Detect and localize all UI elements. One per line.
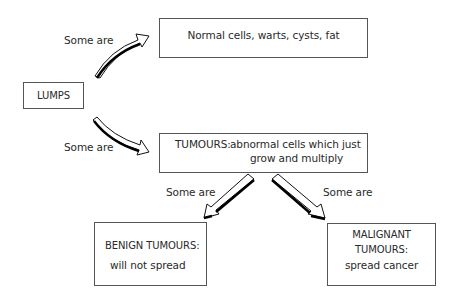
benign-title: BENIGN TUMOURS: bbox=[105, 240, 199, 251]
malignant-title2: TUMOURS: bbox=[355, 242, 408, 257]
malignant-title1: MALIGNANT bbox=[352, 227, 411, 242]
node-tumours: TUMOURS: abnormal cells which just grow … bbox=[159, 133, 368, 173]
tumours-line1: abnormal cells which just bbox=[230, 138, 361, 150]
tumours-title: TUMOURS: bbox=[175, 138, 231, 150]
edge-label-tumours-malignant: Some are bbox=[323, 186, 372, 198]
edge-label-lumps-tumours: Some are bbox=[64, 141, 113, 153]
node-benign: BENIGN TUMOURS: will not spread bbox=[94, 222, 207, 286]
arrow-tumours-to-malignant bbox=[272, 174, 325, 219]
node-normal: Normal cells, warts, cysts, fat bbox=[159, 18, 368, 58]
node-malignant: MALIGNANT TUMOURS: spread cancer bbox=[327, 223, 436, 286]
node-lumps: LUMPS bbox=[23, 82, 84, 109]
edge-label-tumours-benign: Some are bbox=[166, 186, 215, 198]
benign-desc: will not spread bbox=[110, 259, 186, 271]
normal-label: Normal cells, warts, cysts, fat bbox=[187, 29, 339, 41]
lumps-label: LUMPS bbox=[37, 90, 70, 101]
malignant-desc: spread cancer bbox=[345, 257, 418, 273]
edge-label-lumps-normal: Some are bbox=[64, 34, 113, 46]
tumours-line2: grow and multiply bbox=[250, 152, 343, 164]
